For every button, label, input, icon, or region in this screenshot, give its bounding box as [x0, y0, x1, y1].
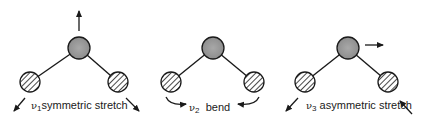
outer-atom-left	[20, 72, 40, 92]
mode-3-label: ν3 asymmetric stretch	[306, 99, 412, 113]
mode-1-symmetric-stretch	[14, 11, 139, 111]
mode-name: bend	[206, 101, 230, 113]
outer-atom-left	[295, 72, 315, 92]
arrow-down-left-icon	[14, 98, 25, 111]
mode-2-bend	[161, 37, 264, 104]
arrow-down-right-icon	[126, 98, 139, 111]
curved-arrow-right-icon	[166, 97, 186, 104]
arrow-down-left-icon	[286, 98, 298, 111]
outer-atom-right	[108, 72, 128, 92]
central-atom	[68, 37, 90, 59]
mode-index: 3	[312, 104, 316, 113]
outer-atom-right	[244, 72, 264, 92]
curved-arrow-left-icon	[238, 97, 259, 104]
central-atom	[337, 37, 359, 59]
mode-1-label: ν1symmetric stretch	[31, 99, 128, 113]
outer-atom-left	[161, 72, 181, 92]
mode-2-label: ν2 bend	[189, 101, 230, 115]
central-atom	[202, 37, 224, 59]
mode-index: 2	[195, 106, 199, 115]
mode-name: symmetric stretch	[42, 99, 128, 111]
outer-atom-right	[378, 72, 398, 92]
mode-name: asymmetric stretch	[320, 99, 412, 111]
